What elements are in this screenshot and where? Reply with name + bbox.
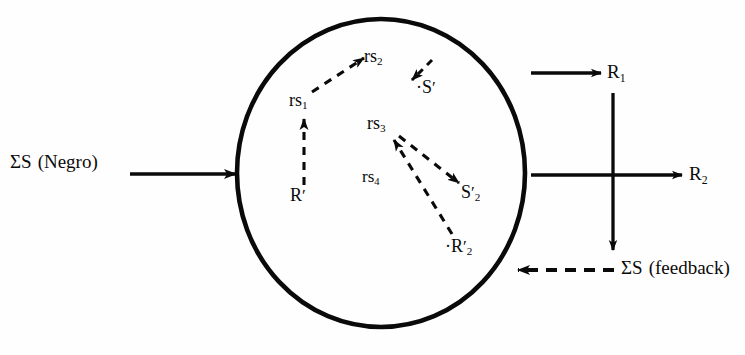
node-Rprime-base: R bbox=[290, 185, 302, 205]
output-label-r1-sub: 1 bbox=[620, 72, 626, 85]
node-Rprime2-base: R bbox=[451, 236, 463, 256]
input-label-sigma: ΣS bbox=[10, 151, 32, 172]
node-Sprime2: S′2 bbox=[461, 183, 480, 201]
node-rs4: rs4 bbox=[362, 168, 380, 185]
feedback-label-paren: (feedback) bbox=[649, 257, 730, 278]
node-rs2-sub: 2 bbox=[377, 55, 383, 67]
feedback-label-sigma: ΣS bbox=[621, 257, 643, 278]
node-rs3-base: rs bbox=[367, 113, 380, 133]
node-Sprime2-base: S bbox=[461, 182, 471, 202]
input-label-paren: (Negro) bbox=[38, 151, 98, 172]
node-rs1: rs1 bbox=[289, 91, 308, 109]
output-label-r2-sub: 2 bbox=[702, 174, 708, 187]
node-rs2: rs2 bbox=[364, 47, 383, 65]
feedback-label: ΣS(feedback) bbox=[621, 258, 730, 277]
node-rs3-sub: 3 bbox=[380, 122, 386, 134]
node-Rprime-prime: ′ bbox=[302, 186, 306, 205]
node-rs4-base: rs bbox=[362, 167, 374, 186]
node-Sprime-prime: ′ bbox=[432, 78, 436, 97]
node-Sprime: ·S′ bbox=[416, 78, 436, 96]
diagram-root: ΣS(Negro) rs2 ·S′ rs1 rs3 rs4 R′ S′2 ·R′… bbox=[0, 0, 745, 355]
edge-rs1-to-rs2 bbox=[312, 58, 364, 92]
node-rs3: rs3 bbox=[367, 114, 386, 132]
node-rs1-base: rs bbox=[289, 90, 302, 110]
edge-rs3-to-Sprime2 bbox=[399, 136, 459, 183]
node-Rprime2-sub: 2 bbox=[467, 245, 473, 257]
output-label-r1-base: R bbox=[607, 61, 620, 82]
node-Sprime-base: S bbox=[422, 77, 432, 97]
node-rs2-base: rs bbox=[364, 46, 377, 66]
output-label-r1: R1 bbox=[607, 62, 626, 81]
node-Sprime2-sub: 2 bbox=[475, 191, 481, 203]
node-Rprime2: ·R′2 bbox=[445, 237, 472, 255]
node-Rprime: R′ bbox=[290, 186, 306, 204]
input-label: ΣS(Negro) bbox=[10, 152, 98, 171]
output-label-r2-base: R bbox=[689, 163, 702, 184]
node-rs4-sub: 4 bbox=[374, 176, 379, 187]
output-label-r2: R2 bbox=[689, 164, 708, 183]
node-rs1-sub: 1 bbox=[302, 99, 308, 111]
